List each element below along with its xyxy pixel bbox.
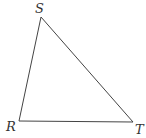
triangle-srt (19, 17, 133, 122)
vertex-label-t: T (135, 122, 145, 137)
triangle-diagram: S R T (0, 0, 146, 138)
vertex-label-r: R (5, 119, 16, 134)
vertex-label-s: S (35, 1, 44, 16)
